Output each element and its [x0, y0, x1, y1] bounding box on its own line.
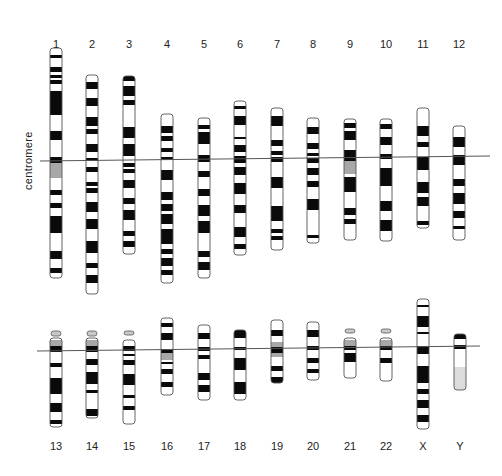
band [198, 262, 210, 270]
band [198, 171, 210, 177]
band [234, 156, 246, 163]
band [86, 129, 98, 134]
band [50, 203, 62, 208]
chromosome-15 [123, 331, 135, 424]
band [417, 366, 429, 383]
chromosome-label-1: 1 [53, 38, 59, 50]
band [417, 221, 429, 225]
band [417, 415, 429, 422]
chromosome-17 [198, 325, 210, 400]
band [454, 345, 466, 349]
chromosome-label-7: 7 [274, 38, 280, 50]
chromosome-label-18: 18 [234, 440, 246, 452]
band [417, 332, 429, 334]
band [50, 80, 62, 84]
band [234, 137, 246, 139]
band [380, 220, 392, 231]
band [50, 420, 62, 424]
chromosome-ideogram-canvas [0, 0, 502, 476]
band [307, 143, 319, 149]
chromosome-label-15: 15 [123, 440, 135, 452]
band [234, 205, 246, 213]
band [234, 244, 246, 249]
band [454, 367, 466, 390]
chromosome-label-8: 8 [310, 38, 316, 50]
band [344, 208, 356, 215]
band [123, 76, 135, 81]
band [380, 358, 392, 363]
band [161, 192, 173, 200]
band [380, 168, 392, 186]
band [86, 188, 98, 193]
chromosome-Y [454, 334, 466, 390]
centromere-region [86, 340, 98, 346]
band [198, 373, 210, 380]
band [271, 236, 283, 240]
band [344, 353, 356, 362]
band [50, 403, 62, 412]
band [307, 358, 319, 363]
band [50, 216, 62, 233]
band [344, 123, 356, 128]
band [161, 204, 173, 211]
band [307, 181, 319, 187]
chromosome-label-Y: Y [456, 440, 463, 452]
band [380, 201, 392, 211]
chromosome-8 [307, 118, 319, 243]
chromosome-label-3: 3 [126, 38, 132, 50]
chromosome-label-6: 6 [237, 38, 243, 50]
band [453, 179, 465, 186]
band [50, 268, 62, 273]
band [380, 137, 392, 145]
chromosome-11 [417, 108, 429, 228]
band [380, 124, 392, 129]
chromosome-label-12: 12 [453, 38, 465, 50]
chromosome-19 [271, 320, 283, 383]
chromosome-label-22: 22 [380, 440, 392, 452]
band [161, 136, 173, 141]
band [454, 334, 466, 339]
band [344, 131, 356, 140]
band [198, 125, 210, 129]
band [307, 199, 319, 210]
chromosome-20 [307, 322, 319, 380]
satellite [345, 329, 355, 333]
band [307, 158, 319, 163]
satellite [381, 329, 391, 333]
band [417, 126, 429, 136]
band [123, 406, 135, 410]
band [50, 378, 62, 394]
satellite [51, 331, 61, 336]
chromosome-label-9: 9 [347, 38, 353, 50]
band [86, 144, 98, 152]
band [453, 137, 465, 147]
chromosome-label-14: 14 [86, 440, 98, 452]
band [86, 263, 98, 268]
band [86, 167, 98, 172]
centromere-region [344, 340, 356, 346]
band [417, 389, 429, 394]
band [344, 150, 356, 155]
band [417, 197, 429, 206]
chromosome-13 [50, 331, 62, 427]
band [271, 206, 283, 221]
band [453, 193, 465, 204]
band [307, 127, 319, 134]
band [417, 400, 429, 408]
band [271, 177, 283, 188]
chromosome-label-5: 5 [201, 38, 207, 50]
chromosome-10 [380, 119, 392, 241]
band [123, 144, 135, 156]
band [417, 305, 429, 307]
band [198, 333, 210, 339]
band [123, 374, 135, 385]
band [123, 231, 135, 236]
band [123, 210, 135, 220]
band [161, 258, 173, 266]
band [123, 180, 135, 188]
chromosome-label-2: 2 [89, 38, 95, 50]
band [198, 132, 210, 144]
band [234, 145, 246, 152]
band [161, 270, 173, 275]
band [271, 151, 283, 155]
